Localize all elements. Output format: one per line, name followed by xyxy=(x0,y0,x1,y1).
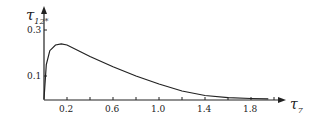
x-tick-1.8: 1.8 xyxy=(243,104,257,114)
x-axis-label: τ7 xyxy=(290,96,303,115)
y-axis-label: τ12* xyxy=(26,6,49,26)
y-tick-0.3: 0.3 xyxy=(27,25,41,35)
x-tick-1.4: 1.4 xyxy=(197,104,211,114)
x-tick-0.2: 0.2 xyxy=(59,104,73,114)
x-tick-1.0: 1.0 xyxy=(151,104,165,114)
y-tick-0.1: 0.1 xyxy=(27,71,41,81)
chart-plot xyxy=(0,0,324,121)
x-tick-0.6: 0.6 xyxy=(105,104,119,114)
